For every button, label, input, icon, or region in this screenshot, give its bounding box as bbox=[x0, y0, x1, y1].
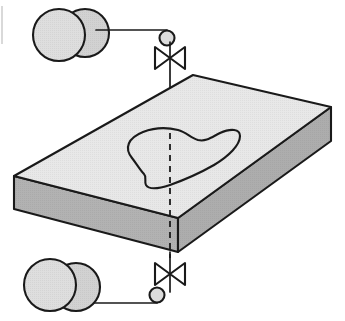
diagram-svg bbox=[0, 0, 345, 321]
vessel-front-upper-texture bbox=[33, 9, 85, 61]
connection-node-lower bbox=[150, 288, 165, 303]
technical-diagram-canvas bbox=[0, 0, 345, 321]
vessel-pair-lower bbox=[24, 259, 100, 311]
connection-node-upper bbox=[160, 31, 175, 46]
vessel-front-lower-texture bbox=[24, 259, 76, 311]
vessel-pair-upper bbox=[33, 9, 109, 61]
